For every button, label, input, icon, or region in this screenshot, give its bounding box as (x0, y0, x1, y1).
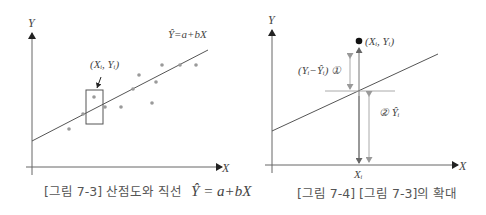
scatter-point (137, 73, 141, 77)
y-axis-label: Y (268, 13, 276, 27)
scatter-point (154, 80, 158, 84)
scatter-point (150, 101, 154, 105)
xi-label: Xᵢ (353, 168, 363, 180)
scatter-point (194, 63, 198, 67)
residual-label: (Yᵢ−Ŷᵢ) ① (298, 64, 342, 77)
scatter-point (178, 63, 182, 67)
point-label-xi-yi: (Xᵢ, Yᵢ) (90, 58, 119, 71)
caption-text: [그림 7-3] 산점도와 직선 (44, 184, 182, 199)
diagram-canvas: Y X Ŷ=a+bX (Xᵢ, Yᵢ) [그림 7-3] 산점도와 (0, 0, 486, 215)
figure-caption-7-4: [그림 7-4] [그림 7-3]의 확대 (297, 186, 457, 201)
pointer-arrow (97, 77, 101, 88)
fitted-value-label: ② Ŷᵢ (379, 106, 400, 118)
x-axis-label: X (221, 161, 230, 175)
scatter-point (67, 127, 71, 131)
x-axis-label: X (458, 159, 467, 173)
scatter-point (160, 63, 164, 67)
figure-caption-7-3: [그림 7-3] 산점도와 직선 Ŷ = a+bX (44, 182, 252, 199)
scatter-point (103, 105, 107, 109)
observed-point (356, 38, 363, 45)
scatter-points (67, 63, 198, 131)
scatter-point (81, 112, 85, 116)
scatter-point (131, 87, 135, 91)
regression-line (272, 54, 438, 131)
regression-equation-label: Ŷ=a+bX (168, 28, 208, 40)
regression-line (32, 50, 208, 141)
y-axis-label: Y (28, 16, 36, 30)
figure-7-3-scatter-plot: Y X Ŷ=a+bX (Xᵢ, Yᵢ) [그림 7-3] 산점도와 (26, 16, 252, 199)
caption-equation: Ŷ = a+bX (191, 183, 252, 199)
highlight-box (86, 90, 103, 124)
scatter-point (92, 95, 96, 99)
figure-7-4-zoomed-view: Y X (Xᵢ, Yᵢ) (Yᵢ−Ŷᵢ) ① ② Ŷᵢ Xᵢ [그림 7-4] … (265, 13, 467, 201)
scatter-point (119, 105, 123, 109)
observed-point-label: (Xᵢ, Yᵢ) (365, 35, 394, 48)
